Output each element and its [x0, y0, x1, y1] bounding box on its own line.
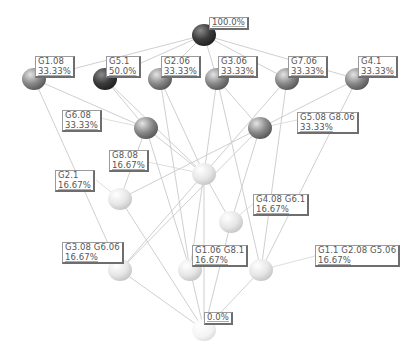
node-label-g106g81: G1.06 G8.116.67% [192, 245, 248, 267]
concept-node-g11g208g506[interactable] [249, 259, 273, 281]
node-label-g308g606: G3.08 G6.0616.67% [62, 242, 124, 264]
node-label-percentage: 16.67% [112, 161, 145, 171]
node-label-top: 100.0% [209, 17, 249, 30]
node-label-g108: G1.0833.33% [35, 56, 75, 78]
node-label-g706: G7.0633.33% [288, 56, 328, 78]
node-label-percentage: 16.67% [256, 205, 305, 215]
node-label-bottom: 0.0% [204, 312, 233, 325]
node-label-percentage: 33.33% [221, 67, 254, 77]
edge-line [217, 79, 261, 270]
concept-node-g608[interactable] [134, 117, 158, 139]
edge-line [204, 79, 217, 174]
node-label-percentage: 33.33% [65, 121, 98, 131]
node-label-percentage: 33.33% [291, 67, 324, 77]
concept-node-g408g61[interactable] [219, 211, 243, 233]
edge-line [261, 79, 287, 270]
edge-line [160, 79, 190, 270]
concept-node-g808[interactable] [192, 163, 216, 185]
node-label-g306: G3.0633.33% [218, 56, 258, 78]
node-label-percentage: 50.0% [109, 67, 137, 77]
node-label-percentage: 33.33% [164, 67, 197, 77]
node-label-g608: G6.0833.33% [62, 110, 102, 132]
node-label-g51: G5.150.0% [106, 56, 141, 78]
concept-node-g21[interactable] [108, 188, 132, 210]
node-label-g508g806: G5.08 G8.0633.33% [297, 112, 359, 134]
node-label-percentage: 16.67% [195, 256, 244, 266]
node-label-percentage: 100.0% [212, 18, 245, 28]
node-label-g11g208g506: G1.1 G2.08 G5.0616.67% [315, 245, 400, 267]
node-label-percentage: 16.67% [318, 256, 396, 266]
node-label-percentage: 0.0% [207, 313, 229, 323]
node-label-percentage: 16.67% [65, 253, 120, 263]
node-label-g41: G4.133.33% [358, 56, 398, 78]
node-label-percentage: 33.33% [361, 67, 394, 77]
node-label-percentage: 33.33% [300, 123, 355, 133]
edge-line [146, 128, 190, 270]
node-label-g206: G2.0633.33% [161, 56, 201, 78]
edge-line [120, 79, 357, 199]
node-label-g408g61: G4.08 G6.116.67% [253, 194, 309, 216]
edge-line [261, 79, 357, 270]
concept-node-g508g806[interactable] [248, 117, 272, 139]
node-label-g21: G2.116.67% [55, 170, 95, 192]
node-label-percentage: 16.67% [58, 181, 91, 191]
node-label-g808: G8.0816.67% [109, 150, 149, 172]
node-label-percentage: 33.33% [38, 67, 71, 77]
